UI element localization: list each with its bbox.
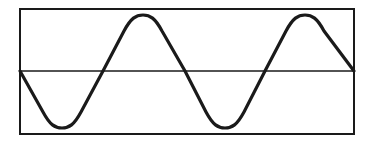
waveform-svg xyxy=(0,0,367,141)
waveform-figure xyxy=(0,0,367,141)
